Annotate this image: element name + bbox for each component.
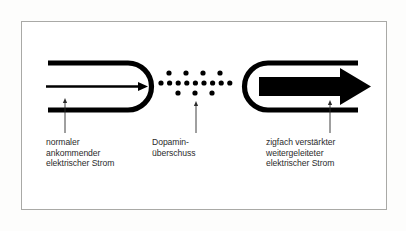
synapse-diagram xyxy=(0,0,406,231)
dopamine-dot xyxy=(184,80,189,85)
figure-root: normaler ankommender elektrischer Strom … xyxy=(0,0,406,231)
dopamine-dot xyxy=(200,70,205,75)
dopamine-dot xyxy=(176,80,181,85)
dopamine-dot xyxy=(167,80,172,85)
caption-dopamine-excess: Dopamin- überschuss xyxy=(152,137,195,158)
dopamine-dot xyxy=(217,70,222,75)
pointer-output-head xyxy=(328,100,332,105)
pointer-dopamine-head xyxy=(194,101,198,106)
dopamine-dot xyxy=(166,70,171,75)
dopamine-dot-cluster xyxy=(158,70,232,95)
caption-incoming-current: normaler ankommender elektrischer Strom xyxy=(46,137,114,169)
pointer-input-head xyxy=(63,98,67,103)
dopamine-dot xyxy=(201,80,206,85)
thin-current-arrow xyxy=(46,82,148,91)
dopamine-dot xyxy=(210,80,215,85)
caption-amplified-current: zigfach verstärkter weitergeleiteter ele… xyxy=(266,137,335,169)
dopamine-dot xyxy=(227,80,232,85)
dopamine-dot xyxy=(183,70,188,75)
dopamine-dot xyxy=(209,90,214,95)
dopamine-dot xyxy=(192,90,197,95)
dopamine-dot xyxy=(158,80,163,85)
dopamine-dot xyxy=(175,90,180,95)
dopamine-dot xyxy=(193,80,198,85)
thick-current-arrow xyxy=(259,68,371,105)
dopamine-dot xyxy=(219,80,224,85)
pointer-leaders xyxy=(63,98,332,133)
